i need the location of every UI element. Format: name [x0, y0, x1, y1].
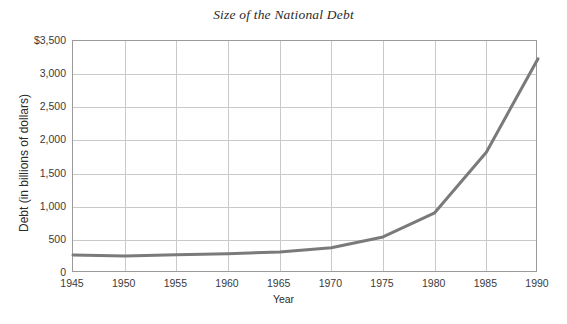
x-tick-label: 1975 [370, 277, 393, 289]
x-tick-label: 1945 [60, 277, 83, 289]
x-tick-label: 1950 [112, 277, 135, 289]
y-tick-label: 1,000 [0, 200, 66, 212]
y-tick-label: 2,500 [0, 100, 66, 112]
x-tick-label: 1990 [525, 277, 548, 289]
x-tick-label: 1970 [319, 277, 342, 289]
y-tick-label: $3,500 [0, 34, 66, 46]
y-tick-label: 0 [0, 266, 66, 278]
y-tick-label: 3,000 [0, 67, 66, 79]
x-tick-label: 1955 [164, 277, 187, 289]
y-axis-title: Debt (in billions of dollars) [17, 47, 31, 279]
x-axis-title: Year [0, 293, 567, 305]
x-tick-label: 1980 [422, 277, 445, 289]
plot-area [72, 40, 537, 272]
chart-title: Size of the National Debt [0, 7, 567, 23]
y-tick-label: 1,500 [0, 167, 66, 179]
y-tick-label: 500 [0, 233, 66, 245]
x-tick-label: 1985 [474, 277, 497, 289]
y-tick-label: 2,000 [0, 133, 66, 145]
x-tick-label: 1965 [267, 277, 290, 289]
x-tick-label: 1960 [215, 277, 238, 289]
data-series-national-debt [73, 41, 538, 273]
chart-figure: Size of the National Debt 05001,0001,500… [0, 0, 567, 324]
